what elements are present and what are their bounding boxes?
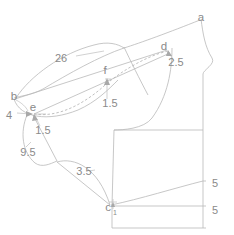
neckline-curve [201, 19, 213, 74]
pattern-draft-canvas: a d f b e c 26 2.5 1.5 4 1.5 9.5 3.5 1 5… [0, 0, 234, 235]
b-hook-mark [16, 100, 28, 111]
pattern-draft-drawing: a d f b e c 26 2.5 1.5 4 1.5 9.5 3.5 1 5… [0, 0, 234, 235]
measure-label-3p5: 3.5 [76, 165, 91, 177]
measure-label-1p5-e: 1.5 [35, 124, 50, 136]
measure-label-4: 4 [6, 109, 12, 121]
measure-label-9p5: 9.5 [20, 146, 35, 158]
measure-label-5-upper: 5 [212, 177, 218, 189]
point-label-a: a [198, 11, 205, 23]
leader-26 [76, 51, 104, 56]
measure-label-2p5: 2.5 [168, 56, 183, 68]
point-label-d: d [161, 40, 167, 52]
point-labels-group: a d f b e c [11, 11, 205, 213]
point-label-f: f [103, 64, 107, 76]
right-measure-divider [203, 181, 206, 228]
measure-label-5-lower: 5 [212, 204, 218, 216]
bottom-band-rect [112, 206, 203, 228]
e-to-notch-line [33, 115, 57, 161]
point-label-b: b [11, 90, 17, 102]
point-label-e: e [30, 101, 36, 113]
armhole-curve [114, 48, 172, 130]
measure-label-26: 26 [55, 52, 67, 64]
hem-curve-upper [111, 181, 203, 205]
sleeve-centre-line [124, 47, 148, 95]
measure-label-1p5-f: 1.5 [102, 97, 117, 109]
point-label-c: c [105, 201, 111, 213]
midpanel-left-line [112, 130, 114, 206]
measure-label-1: 1 [113, 209, 117, 216]
